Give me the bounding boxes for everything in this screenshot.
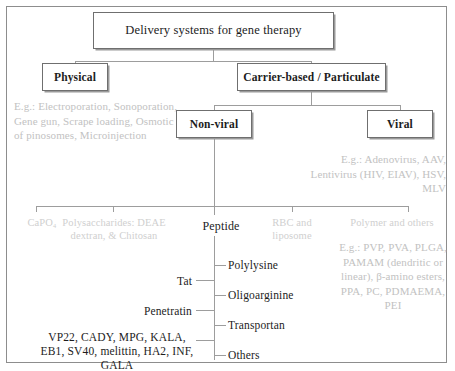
examples-physical: E.g.: Electroporation, Sonoporation, Gen… — [14, 99, 202, 143]
connector-to-polymer — [408, 206, 409, 212]
connector-nonviral-stem — [214, 138, 215, 206]
peptide-label-tat[interactable]: Tat — [150, 274, 192, 288]
node-physical-label: Physical — [54, 71, 96, 84]
node-viral[interactable]: Viral — [367, 110, 433, 138]
category-rbc-liposome[interactable]: RBC and liposome — [252, 216, 332, 242]
figure-canvas: Delivery systems for gene therapy Physic… — [0, 0, 455, 371]
connector-peptide-transportan — [214, 325, 226, 326]
node-root-label: Delivery systems for gene therapy — [125, 24, 301, 38]
peptide-child-polylysine[interactable]: Polylysine — [228, 258, 278, 272]
examples-polymer: E.g.: PVP, PVA, PLGA, PAMAM (dendritic o… — [337, 240, 449, 313]
category-polymer-others[interactable]: Polymer and others — [336, 216, 448, 229]
node-non-viral[interactable]: Non-viral — [176, 110, 252, 138]
node-carrier-based-label: Carrier-based / Particulate — [243, 71, 379, 84]
peptide-child-oligoarginine[interactable]: Oligoarginine — [228, 288, 294, 302]
node-non-viral-label: Non-viral — [190, 118, 239, 131]
connector-to-peptide — [214, 206, 215, 215]
node-carrier-based[interactable]: Carrier-based / Particulate — [237, 63, 386, 91]
peptide-child-others[interactable]: Others — [228, 348, 260, 362]
connector-carrier-bus — [214, 105, 400, 106]
connector-peptide-oligoarginine — [214, 295, 226, 296]
connector-root-bus — [75, 61, 312, 62]
examples-viral: E.g.: Adenovirus, AAV, Lentivirus (HIV, … — [296, 152, 446, 196]
connector-category-bus — [36, 206, 408, 207]
peptide-others-list: VP22, CADY, MPG, KALA, EB1, SV40, melitt… — [38, 330, 196, 371]
peptide-child-transportan[interactable]: Transportan — [228, 318, 285, 332]
connector-peptide-spine — [214, 236, 215, 360]
connector-peptide-others — [214, 355, 226, 356]
connector-peptide-polylysine — [214, 265, 226, 266]
node-root[interactable]: Delivery systems for gene therapy — [93, 12, 334, 49]
connector-carrier-stem — [311, 91, 312, 105]
connector-root-stem — [213, 49, 214, 61]
category-peptide[interactable]: Peptide — [186, 219, 256, 233]
connector-peptide-tat — [196, 280, 214, 281]
connector-to-rbc — [292, 206, 293, 212]
category-polysaccharides[interactable]: Polysaccharides: DEAE dextran, & Chitosa… — [62, 216, 166, 242]
node-viral-label: Viral — [387, 118, 413, 131]
connector-to-polysaccharides — [113, 206, 114, 212]
connector-peptide-otherslist — [196, 340, 214, 341]
node-physical[interactable]: Physical — [42, 63, 108, 91]
connector-peptide-penetratin — [196, 310, 214, 311]
peptide-label-penetratin[interactable]: Penetratin — [112, 304, 192, 318]
connector-to-capo4 — [36, 206, 37, 212]
